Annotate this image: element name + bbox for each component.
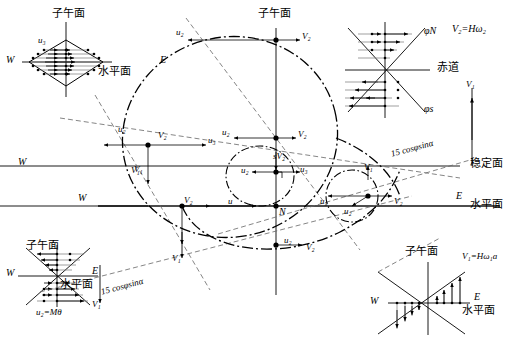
panel-bottom-right-east: E bbox=[474, 292, 480, 302]
panel-bottom-right-west: W bbox=[370, 296, 378, 306]
central-diagram bbox=[0, 14, 500, 303]
central-left-v1-dup: V₁ bbox=[134, 165, 143, 174]
panel-top-right-equator: 赤道 bbox=[437, 62, 459, 73]
central-meridian-title: 子午面 bbox=[258, 8, 291, 19]
central-u-label: u bbox=[228, 197, 233, 206]
central-west-upper: W bbox=[18, 157, 26, 167]
panel-bottom-left-formula: u₂=Mθ bbox=[36, 308, 62, 317]
diagram-canvas: 子午面 u₃ W 水平面 E φN φs 赤道 V₂=Hω₂ 子午面 W E 水… bbox=[0, 0, 522, 343]
central-west: W bbox=[78, 193, 86, 203]
central-far-right-v1: V₁ bbox=[466, 80, 475, 89]
central-right-u2: u₂ bbox=[344, 207, 352, 216]
central-left-v2: V₂ bbox=[158, 131, 167, 140]
central-right-v2: V₂ bbox=[394, 197, 403, 206]
central-left-u3: u₃ bbox=[208, 136, 216, 145]
panel-top-right-phis: φs bbox=[424, 104, 433, 114]
central-stable-plane: 稳定面 bbox=[470, 158, 503, 169]
panel-top-left-u3: u₃ bbox=[38, 36, 46, 45]
central-right-u3: u₃ bbox=[320, 197, 328, 206]
panel-bottom-left-east: E bbox=[92, 266, 98, 276]
central-inner-u2: u₂ bbox=[241, 166, 249, 175]
central-inner-top-u2: u₂ bbox=[222, 128, 230, 137]
central-inner-sv2: sV₂ bbox=[273, 152, 285, 161]
panel-bottom-right-title: 子午面 bbox=[405, 246, 438, 257]
central-top-u2: u₂ bbox=[176, 28, 184, 37]
central-bottom-u2: u₂ bbox=[284, 236, 292, 245]
diagram-vectors bbox=[0, 0, 522, 343]
panel-top-left bbox=[22, 22, 112, 97]
panel-bottom-left-plane: 水平面 bbox=[60, 279, 93, 290]
panel-top-left-plane: 水平面 bbox=[98, 66, 131, 77]
panel-top-left-west: W bbox=[6, 55, 14, 65]
panel-top-left-title: 子午面 bbox=[52, 8, 85, 19]
central-bottomleft-v1: V₁ bbox=[172, 254, 181, 263]
central-right-v1: V₁ bbox=[364, 163, 373, 172]
central-inner-top-v2: V₂ bbox=[298, 130, 307, 139]
central-left-u2: u₂ bbox=[118, 125, 126, 134]
central-east: E bbox=[456, 191, 462, 201]
panel-bottom-left-west: W bbox=[6, 268, 14, 278]
panel-bottom-right-plane: 水平面 bbox=[462, 305, 495, 316]
panel-bottom-left bbox=[18, 245, 98, 307]
panel-top-right-phin: φN bbox=[424, 26, 436, 36]
panel-bottom-left-title: 子午面 bbox=[26, 240, 59, 251]
central-top-v2: V₂ bbox=[302, 32, 311, 41]
panel-top-right bbox=[345, 22, 430, 118]
panel-bottom-right bbox=[378, 262, 470, 335]
central-bottomleft-v2: V₂ bbox=[184, 196, 193, 205]
central-horizontal-plane: 水平面 bbox=[470, 199, 503, 210]
central-bottom-v2: V₂ bbox=[306, 243, 315, 252]
panel-bottom-right-formula: V₁=Hω₁a bbox=[462, 252, 497, 261]
central-inner-u3: u₃ bbox=[300, 165, 308, 174]
panel-top-left-east: E bbox=[160, 55, 166, 65]
central-node-n: N bbox=[279, 207, 286, 217]
central-free-v1: V₁ bbox=[92, 300, 101, 309]
panel-top-right-formula: V₂=Hω₂ bbox=[452, 24, 486, 34]
